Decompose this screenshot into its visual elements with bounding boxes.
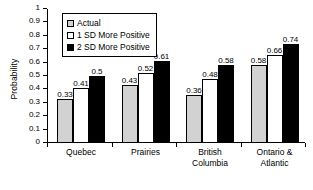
- y-tick: 0.8: [43, 35, 47, 36]
- bar: 0.48: [202, 79, 218, 143]
- bar-value-label: 0.66: [267, 46, 283, 55]
- y-tick-label: 0: [36, 137, 40, 146]
- bar-value-label: 0.48: [202, 70, 218, 79]
- x-category-label: Ontario & Atlantic: [235, 147, 313, 169]
- y-tick: 0.6: [43, 62, 47, 63]
- y-tick: 0.3: [43, 102, 47, 103]
- y-tick: 0.5: [43, 75, 47, 76]
- legend-swatch-2sd: [67, 44, 74, 51]
- y-tick: 0.2: [43, 115, 47, 116]
- y-tick: 0.4: [43, 88, 47, 89]
- bar: 0.58: [218, 65, 234, 143]
- bar-value-label: 0.58: [218, 56, 234, 65]
- legend-item-2sd: 2 SD More Positive: [67, 41, 150, 53]
- bar: 0.5: [89, 76, 105, 143]
- y-tick-label: 0.2: [29, 110, 40, 119]
- bar: 0.61: [154, 61, 170, 143]
- bar: 0.36: [186, 95, 202, 143]
- y-tick-label: 0.8: [29, 30, 40, 39]
- bar: 0.43: [122, 85, 138, 143]
- bar-value-label: 0.41: [73, 79, 89, 88]
- legend-item-actual: Actual: [67, 17, 150, 29]
- legend-label-1sd: 1 SD More Positive: [77, 30, 150, 40]
- bar: 0.58: [251, 65, 267, 143]
- bar: 0.74: [283, 44, 299, 143]
- bar-value-label: 0.36: [186, 86, 202, 95]
- y-tick-label: 0.6: [29, 57, 40, 66]
- y-tick-label: 0.9: [29, 16, 40, 25]
- bar: 0.52: [138, 73, 154, 143]
- legend-label-2sd: 2 SD More Positive: [77, 42, 150, 52]
- y-tick-label: 1: [36, 3, 40, 12]
- bar-value-label: 0.74: [283, 35, 299, 44]
- y-axis-line: [47, 9, 48, 143]
- bar-chart: Probability 00.10.20.30.40.50.60.70.80.9…: [0, 0, 312, 190]
- bar-value-label: 0.43: [122, 76, 138, 85]
- bar-value-label: 0.5: [91, 67, 102, 76]
- legend-label-actual: Actual: [77, 18, 101, 28]
- legend-item-1sd: 1 SD More Positive: [67, 29, 150, 41]
- bar: 0.33: [57, 99, 73, 143]
- y-tick: 0.9: [43, 21, 47, 22]
- bar: 0.41: [73, 88, 89, 143]
- bar-value-label: 0.52: [138, 64, 154, 73]
- bar-value-label: 0.33: [57, 90, 73, 99]
- y-tick-label: 0.1: [29, 124, 40, 133]
- y-tick: 0.1: [43, 129, 47, 130]
- y-tick-label: 0.7: [29, 43, 40, 52]
- y-tick-label: 0.3: [29, 97, 40, 106]
- y-tick-label: 0.5: [29, 70, 40, 79]
- y-tick: 1: [43, 8, 47, 9]
- y-tick-label: 0.4: [29, 83, 40, 92]
- legend: Actual 1 SD More Positive 2 SD More Posi…: [62, 13, 157, 57]
- y-axis-title: Probability: [9, 39, 19, 119]
- y-tick: 0.7: [43, 48, 47, 49]
- legend-swatch-1sd: [67, 32, 74, 39]
- bar: 0.66: [267, 55, 283, 143]
- bar-value-label: 0.58: [251, 56, 267, 65]
- legend-swatch-actual: [67, 20, 74, 27]
